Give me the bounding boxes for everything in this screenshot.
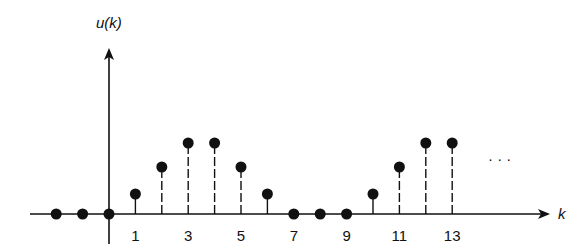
tick-labels-group: 135791113: [131, 227, 460, 244]
continuation-dots: · · ·: [488, 150, 511, 167]
tick-label: 1: [131, 227, 139, 244]
sample-point: [315, 209, 326, 220]
tick-label: 3: [184, 227, 192, 244]
x-axis-label: k: [558, 205, 567, 222]
sample-point: [130, 189, 141, 200]
tick-label: 7: [290, 227, 298, 244]
tick-label: 5: [237, 227, 245, 244]
sample-point: [420, 138, 431, 149]
sample-point: [236, 162, 247, 173]
tick-label: 9: [342, 227, 350, 244]
sample-point: [51, 209, 62, 220]
y-axis-label: u(k): [96, 14, 122, 31]
sample-point: [447, 138, 458, 149]
sample-point: [288, 209, 299, 220]
sample-point: [183, 138, 194, 149]
sample-point: [341, 209, 352, 220]
stem-plot: u(k) k · · · 135791113: [0, 0, 586, 251]
stems-group: [51, 138, 458, 220]
sample-point: [77, 209, 88, 220]
sample-point: [394, 162, 405, 173]
sample-point: [156, 162, 167, 173]
tick-label: 13: [444, 227, 461, 244]
tick-label: 11: [392, 227, 408, 244]
sample-point: [262, 189, 273, 200]
sample-point: [209, 138, 220, 149]
sample-point: [368, 189, 379, 200]
sample-point: [104, 209, 115, 220]
